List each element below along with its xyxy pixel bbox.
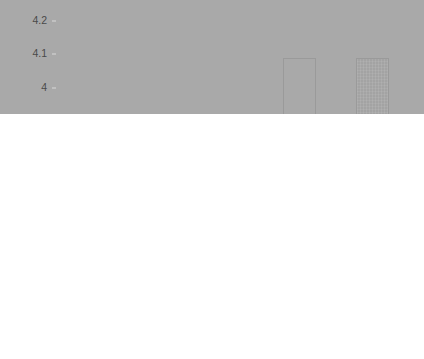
bar-chart: 4.2 4.1 4 3.9 3.8 3.7 3.6 3.5 bbox=[0, 0, 424, 114]
bar-4 bbox=[356, 58, 389, 114]
bars-layer bbox=[52, 18, 420, 114]
y-tick-label-1: 4.1 bbox=[32, 49, 47, 60]
y-tick-label-0: 4.2 bbox=[32, 15, 47, 26]
plot-area: 4.2 4.1 4 3.9 3.8 3.7 3.6 3.5 bbox=[52, 18, 420, 114]
bar-3 bbox=[283, 58, 316, 114]
y-tick-label-2: 4 bbox=[41, 82, 47, 93]
